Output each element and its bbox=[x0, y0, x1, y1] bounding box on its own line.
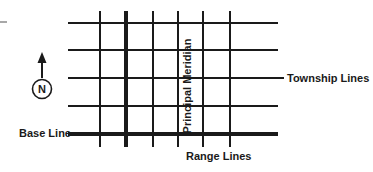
plss-diagram-figure: N Township Lines Base Line Range Lines P… bbox=[0, 0, 373, 172]
township-lines-label: Township Lines bbox=[287, 73, 369, 84]
edge-artifact-dash bbox=[0, 21, 7, 23]
principal-meridian-label-text: Principal Meridian bbox=[181, 39, 193, 134]
base-line-label: Base Line bbox=[19, 128, 71, 139]
north-arrow-head bbox=[38, 52, 47, 63]
north-label: N bbox=[32, 79, 52, 99]
range-lines-label: Range Lines bbox=[186, 151, 251, 162]
